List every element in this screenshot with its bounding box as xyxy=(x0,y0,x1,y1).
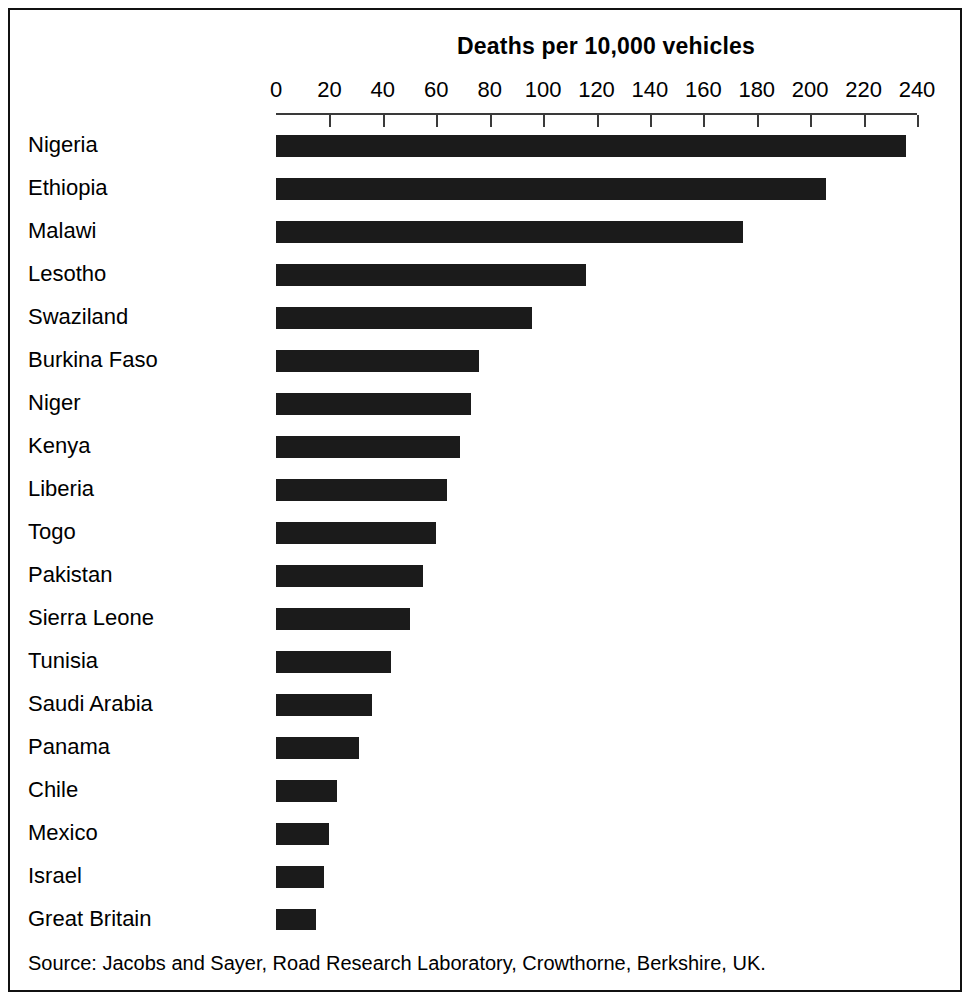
bar-track xyxy=(276,823,936,845)
bar xyxy=(276,694,372,716)
bar-row: Saudi Arabia xyxy=(0,685,970,728)
bar-row: Liberia xyxy=(0,470,970,513)
bar xyxy=(276,264,586,286)
bar-track xyxy=(276,178,936,200)
bar xyxy=(276,608,410,630)
bar-row: Ethiopia xyxy=(0,169,970,212)
category-label: Pakistan xyxy=(28,562,268,588)
category-label: Swaziland xyxy=(28,304,268,330)
bar-track xyxy=(276,479,936,501)
bar-row: Sierra Leone xyxy=(0,599,970,642)
bar-track xyxy=(276,307,936,329)
category-label: Kenya xyxy=(28,433,268,459)
x-axis-tick-label: 220 xyxy=(834,77,894,103)
x-axis-tick-label: 100 xyxy=(513,77,573,103)
x-axis-tick-label: 80 xyxy=(460,77,520,103)
category-label: Nigeria xyxy=(28,132,268,158)
category-label: Israel xyxy=(28,863,268,889)
bar-track xyxy=(276,135,936,157)
source-divider xyxy=(26,930,944,931)
category-label: Ethiopia xyxy=(28,175,268,201)
category-label: Sierra Leone xyxy=(28,605,268,631)
x-axis-tick-label: 120 xyxy=(567,77,627,103)
bar-row: Tunisia xyxy=(0,642,970,685)
bar-row: Nigeria xyxy=(0,126,970,169)
x-axis-tick-label: 0 xyxy=(246,77,306,103)
chart-title: Deaths per 10,000 vehicles xyxy=(276,33,936,60)
category-label: Panama xyxy=(28,734,268,760)
bar xyxy=(276,737,359,759)
bar-row: Malawi xyxy=(0,212,970,255)
category-label: Malawi xyxy=(28,218,268,244)
bar xyxy=(276,393,471,415)
bar-rows: NigeriaEthiopiaMalawiLesothoSwazilandBur… xyxy=(0,126,970,943)
bar xyxy=(276,135,906,157)
bar-row: Togo xyxy=(0,513,970,556)
bar-row: Burkina Faso xyxy=(0,341,970,384)
bar xyxy=(276,866,324,888)
bar xyxy=(276,522,436,544)
bar-row: Pakistan xyxy=(0,556,970,599)
bar-row: Chile xyxy=(0,771,970,814)
category-label: Burkina Faso xyxy=(28,347,268,373)
bar-row: Israel xyxy=(0,857,970,900)
bar xyxy=(276,651,391,673)
bar-track xyxy=(276,694,936,716)
bar-track xyxy=(276,436,936,458)
bar-track xyxy=(276,350,936,372)
figure-page: Deaths per 10,000 vehicles 0204060801001… xyxy=(0,0,970,1000)
x-axis-tick-label: 20 xyxy=(299,77,359,103)
x-axis-tick-label: 140 xyxy=(620,77,680,103)
bar-row: Niger xyxy=(0,384,970,427)
bar xyxy=(276,823,329,845)
category-label: Lesotho xyxy=(28,261,268,287)
source-note: Source: Jacobs and Sayer, Road Research … xyxy=(28,952,766,975)
bar-track xyxy=(276,264,936,286)
bar-track xyxy=(276,909,936,931)
bar-track xyxy=(276,780,936,802)
category-label: Chile xyxy=(28,777,268,803)
category-label: Mexico xyxy=(28,820,268,846)
x-axis-tick-label: 40 xyxy=(353,77,413,103)
bar-track xyxy=(276,565,936,587)
category-label: Great Britain xyxy=(28,906,268,932)
bar xyxy=(276,307,532,329)
category-label: Niger xyxy=(28,390,268,416)
bar xyxy=(276,350,479,372)
bar xyxy=(276,565,423,587)
bar xyxy=(276,780,337,802)
x-axis-tick-label: 240 xyxy=(887,77,947,103)
x-axis-tick-label: 160 xyxy=(673,77,733,103)
bar-row: Kenya xyxy=(0,427,970,470)
category-label: Saudi Arabia xyxy=(28,691,268,717)
category-label: Togo xyxy=(28,519,268,545)
bar xyxy=(276,178,826,200)
bar xyxy=(276,909,316,931)
bar xyxy=(276,436,460,458)
bar xyxy=(276,221,743,243)
bar-track xyxy=(276,737,936,759)
x-axis-tick-label: 200 xyxy=(780,77,840,103)
x-axis-tick-label: 180 xyxy=(727,77,787,103)
bar xyxy=(276,479,447,501)
bar-track xyxy=(276,393,936,415)
bar-row: Lesotho xyxy=(0,255,970,298)
category-label: Liberia xyxy=(28,476,268,502)
bar-row: Mexico xyxy=(0,814,970,857)
category-label: Tunisia xyxy=(28,648,268,674)
x-axis: 020406080100120140160180200220240 xyxy=(276,113,917,114)
x-axis-tick-label: 60 xyxy=(406,77,466,103)
bar-row: Swaziland xyxy=(0,298,970,341)
bar-track xyxy=(276,522,936,544)
bar-row: Panama xyxy=(0,728,970,771)
bar-track xyxy=(276,866,936,888)
bar-track xyxy=(276,221,936,243)
bar-track xyxy=(276,651,936,673)
bar-track xyxy=(276,608,936,630)
bar-row: Great Britain xyxy=(0,900,970,943)
